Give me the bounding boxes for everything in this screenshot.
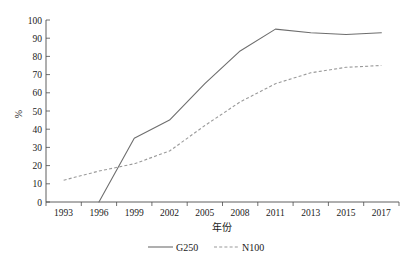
x-label-1999: 1999 [125, 208, 144, 218]
y-axis-labels: 100 90 80 70 60 50 40 30 20 10 0 [28, 16, 43, 208]
axis-lines [46, 20, 399, 202]
legend-label-g250: G250 [176, 242, 198, 253]
series-line-n100 [64, 66, 382, 181]
x-axis-labels: 1993 1996 1999 2002 2005 2008 2011 2013 … [54, 208, 391, 218]
x-label-2002: 2002 [160, 208, 179, 218]
y-label-0: 0 [37, 198, 42, 208]
y-label-60: 60 [33, 88, 43, 98]
x-label-2005: 2005 [195, 208, 214, 218]
legend-label-n100: N100 [242, 242, 264, 253]
y-label-40: 40 [33, 125, 43, 135]
y-label-80: 80 [33, 52, 43, 62]
y-label-70: 70 [33, 70, 43, 80]
line-chart: 100 90 80 70 60 50 40 30 20 10 0 % [0, 0, 410, 261]
x-label-1993: 1993 [54, 208, 73, 218]
y-label-100: 100 [28, 16, 43, 26]
x-axis-title: 年份 [212, 221, 232, 233]
axis-frame-path [46, 20, 399, 202]
x-label-2011: 2011 [266, 208, 285, 218]
chart-canvas: 100 90 80 70 60 50 40 30 20 10 0 % [0, 0, 410, 261]
y-axis-ticks [46, 20, 50, 202]
x-label-2013: 2013 [301, 208, 320, 218]
y-axis-title: % [13, 110, 24, 118]
y-label-30: 30 [33, 143, 43, 153]
x-label-2015: 2015 [337, 208, 356, 218]
y-label-50: 50 [33, 107, 43, 117]
x-label-1996: 1996 [89, 208, 108, 218]
x-axis-ticks [46, 202, 399, 206]
y-label-10: 10 [33, 179, 43, 189]
series-line-g250 [99, 29, 381, 202]
y-label-20: 20 [33, 161, 43, 171]
y-label-90: 90 [33, 34, 43, 44]
x-label-2008: 2008 [231, 208, 250, 218]
x-label-2017: 2017 [372, 208, 391, 218]
legend: G250 N100 [148, 242, 264, 253]
